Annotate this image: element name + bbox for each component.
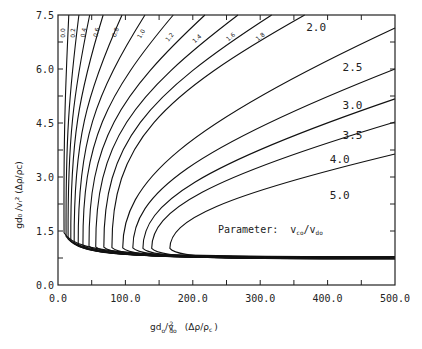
curve-label-0-0: 0.0 <box>59 28 66 38</box>
curve-label-1-4: 1.4 <box>191 32 203 44</box>
curve-label-0-6: 0.6 <box>91 27 100 38</box>
parameter-annotation: Parameter: vco/vdo <box>218 224 323 236</box>
parameter-v2-sub: do <box>316 229 324 236</box>
curve-label-1-6: 1.6 <box>224 31 236 43</box>
curve-label-3-5: 3.5 <box>343 129 363 142</box>
curve-label-5-0: 5.0 <box>330 189 350 202</box>
curve-label-1-0: 1.0 <box>135 28 146 40</box>
parameter-slash: /v <box>304 224 316 235</box>
axis-ticks <box>58 15 395 285</box>
y-tick-label: 6.0 <box>36 64 54 75</box>
plot-frame <box>58 15 395 285</box>
curve-5-0 <box>170 154 395 259</box>
x-tick-label: 500.0 <box>380 293 410 304</box>
parameter-prefix: Parameter: <box>218 224 278 235</box>
chart: 0.0100.0200.0300.0400.0500.00.01.53.04.5… <box>0 0 422 349</box>
x-tick-label: 0.0 <box>49 293 67 304</box>
y-axis-title: gd₀ /vᵣ² (Δρ/ρc) <box>14 161 24 229</box>
curve-label-0-4: 0.4 <box>79 27 88 38</box>
x-tick-label: 400.0 <box>313 293 343 304</box>
curve-label-4-0: 4.0 <box>330 153 350 166</box>
curve-label-0-8: 0.8 <box>110 26 120 38</box>
y-tick-label: 1.5 <box>36 226 54 237</box>
x-tick-label: 300.0 <box>245 293 275 304</box>
curve-label-3-0: 3.0 <box>343 99 363 112</box>
curve-label-2-0: 2.0 <box>306 21 326 34</box>
curve-label-2-5: 2.5 <box>343 61 363 74</box>
x-tick-label: 200.0 <box>178 293 208 304</box>
curve-label-1-8: 1.8 <box>254 31 266 43</box>
x-tick-label: 100.0 <box>110 293 140 304</box>
y-tick-label: 4.5 <box>36 118 54 129</box>
x-axis-title: gdo/v2do(Δρ/ρc) <box>150 320 218 334</box>
curve-labels: 0.00.20.40.60.81.01.21.41.61.82.02.53.03… <box>59 21 362 201</box>
curve-label-1-2: 1.2 <box>164 31 176 43</box>
curve-4-0 <box>152 122 395 259</box>
y-tick-label: 3.0 <box>36 172 54 183</box>
y-tick-label: 0.0 <box>36 280 54 291</box>
y-tick-label: 7.5 <box>36 10 54 21</box>
curve-label-0-2: 0.2 <box>69 28 76 38</box>
